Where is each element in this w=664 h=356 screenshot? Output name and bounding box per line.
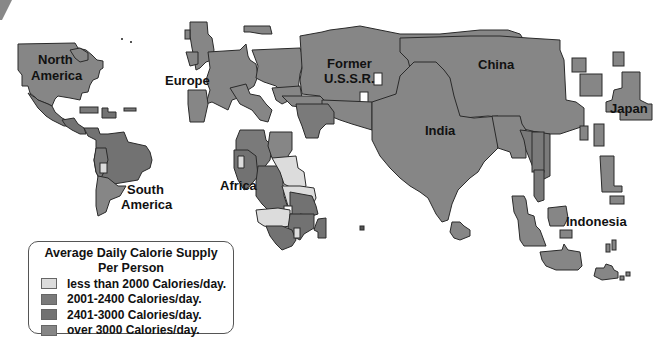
region-korea-south (580, 74, 602, 96)
region-island-a (121, 38, 123, 40)
region-southern-africa-light (256, 208, 290, 228)
legend-item-2001-2400: 2001-2400 Calories/day. (41, 292, 233, 308)
region-island-f (626, 272, 630, 276)
region-cuba (80, 107, 98, 113)
legend-label: 2401-3000 Calories/day. (67, 308, 202, 322)
label-china: China (478, 57, 515, 72)
region-island-b (130, 41, 132, 43)
label-south-america: South (127, 182, 164, 197)
region-timor (594, 264, 618, 280)
region-sri-lanka (450, 222, 470, 240)
region-iceland (185, 30, 190, 39)
label-ussr: Former (327, 56, 372, 71)
label-north-america-2: America (31, 68, 83, 83)
legend-label: over 3000 Calories/day. (67, 323, 200, 337)
label-japan: Japan (610, 101, 648, 116)
region-novaya-zemlya (244, 26, 272, 34)
label-ussr-2: U.S.S.R. (324, 71, 375, 86)
region-korea (572, 58, 586, 72)
region-iberia (188, 90, 208, 122)
region-eastern-europe (252, 48, 304, 92)
region-central-america (62, 118, 86, 134)
label-south-america-2: America (121, 197, 173, 212)
legend-swatch (41, 309, 57, 320)
region-uk (186, 52, 198, 66)
legend-item-2401-3000: 2401-3000 Calories/day. (41, 307, 233, 323)
region-hispaniola (102, 108, 116, 118)
region-thailand (532, 132, 544, 172)
legend-swatch (41, 294, 57, 305)
legend-title-line1: Average Daily Calorie Supply (29, 246, 233, 261)
region-madagascar-gap (294, 228, 300, 238)
label-africa: Africa (220, 178, 258, 193)
region-philippines (600, 156, 622, 192)
region-island-c (606, 244, 610, 252)
region-bangladesh-myanmar (492, 116, 526, 158)
region-java (540, 244, 582, 270)
region-philippines-a (594, 124, 604, 146)
legend-item-over3000: over 3000 Calories/day. (41, 323, 233, 339)
region-philippines-b (610, 196, 624, 204)
region-island-d (612, 240, 616, 250)
region-ussr-white-gap-a (374, 73, 382, 85)
label-north-america: North (38, 52, 73, 67)
label-indonesia: Indonesia (566, 214, 627, 229)
region-malay-peninsula (534, 170, 544, 202)
legend-label: 2001-2400 Calories/day. (67, 292, 202, 306)
legend-title-line2: Per Person (29, 261, 233, 276)
region-island-e (620, 276, 624, 280)
legend-swatch (41, 278, 57, 289)
corner-decoration (0, 0, 12, 20)
region-southern-africa (266, 226, 296, 250)
region-borneo (548, 206, 568, 226)
region-italy (230, 84, 272, 122)
region-sulawesi-small (560, 230, 572, 238)
legend-label: less than 2000 Calories/day. (67, 277, 226, 291)
region-bolivia (100, 163, 107, 173)
legend-swatch (41, 325, 57, 336)
region-japan-hokkaido (613, 52, 624, 66)
label-india: India (425, 123, 456, 138)
region-middle-east (296, 104, 334, 138)
region-taiwan (580, 126, 588, 140)
region-madagascar (314, 218, 326, 238)
region-sumatra (512, 196, 546, 246)
legend-item-lt2000: less than 2000 Calories/day. (41, 276, 233, 292)
legend-title: Average Daily Calorie Supply Per Person (29, 246, 233, 276)
region-west-africa-light (238, 156, 244, 168)
region-puerto-rico (124, 108, 136, 111)
legend: Average Daily Calorie Supply Per Person … (28, 241, 234, 334)
label-europe: Europe (165, 73, 210, 88)
region-mauritius (360, 226, 364, 230)
